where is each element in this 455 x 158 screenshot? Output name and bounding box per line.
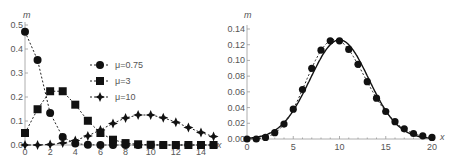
data-point [382,108,389,115]
data-point [184,141,192,149]
y-tick-label: 0.1 [10,116,23,126]
legend-item-mu-10: μ=10 [90,92,135,102]
y-tick-label: 0.3 [10,68,23,78]
data-point [345,46,352,53]
data-point [196,128,206,138]
data-point [391,118,398,125]
data-point [147,141,155,149]
data-point [271,129,278,136]
right-series [243,37,435,142]
data-point [84,117,92,125]
data-point [327,37,334,44]
data-point [172,141,180,149]
data-point [171,117,181,127]
y-tick-label: 0.08 [227,71,245,81]
data-point [290,106,297,113]
data-point [308,65,315,72]
data-point [373,95,380,102]
data-point [410,130,417,137]
y-tick-label: 0.4 [10,44,23,54]
data-point [299,86,306,93]
data-point [336,37,343,44]
data-point [210,141,218,149]
data-point [59,87,67,95]
data-point [183,122,193,132]
data-point [84,141,92,149]
data-point [280,120,287,127]
data-point [364,78,371,85]
data-point [45,140,55,150]
data-point [21,129,29,137]
legend-item-mu-0-75: μ=0.75 [90,60,143,70]
poisson-curve [247,40,431,140]
left-y-axis-label: m [23,10,31,20]
data-point [83,131,93,141]
left-chart: m x 0.00.10.20.30.40.502468101214 μ=0.75… [10,10,222,157]
data-point [122,139,130,147]
y-tick-label: 0.02 [227,118,245,128]
data-point [401,125,408,132]
x-tick-label: 20 [427,142,437,152]
x-tick-label: 0 [244,142,249,152]
data-point [158,113,168,123]
data-point [419,132,426,139]
y-tick-label: 0.12 [227,40,245,50]
data-point [262,134,269,141]
x-tick-label: 10 [334,142,344,152]
left-series [20,28,219,150]
y-tick-label: 0.06 [227,87,245,97]
right-x-axis-label: x [439,132,445,142]
normal-curve [247,40,431,138]
data-point [96,141,104,149]
legend-label: μ=3 [115,76,130,86]
x-tick-label: 15 [381,142,391,152]
data-point [197,141,205,149]
left-legend: μ=0.75 μ=3 μ=10 [90,60,143,102]
data-point [159,141,167,149]
y-tick-label: 0.10 [227,55,245,65]
right-y-axis-label: m [244,10,252,20]
y-tick-label: 0.04 [227,103,245,113]
right-chart: m x 0.000.020.040.060.080.100.120.140510… [227,10,445,152]
data-point [121,113,131,123]
y-tick-label: 0.2 [10,92,23,102]
data-point [354,61,361,68]
data-point [71,101,79,109]
x-tick-label: 4 [73,147,78,157]
figure: m x 0.00.10.20.30.40.502468101214 μ=0.75… [0,0,455,158]
data-point [243,135,250,142]
y-tick-label: 0.00 [227,134,245,144]
data-point [33,140,43,150]
y-tick-label: 0.5 [10,20,23,30]
legend-item-mu-3: μ=3 [90,76,130,86]
data-point [253,135,260,142]
data-point [21,28,29,36]
data-point [146,110,156,120]
data-point [58,138,68,148]
data-point [317,47,324,54]
data-point [34,105,42,113]
data-point [46,109,54,117]
data-point [109,136,117,144]
legend-label: μ=10 [115,92,135,102]
data-point [428,134,435,141]
data-point [34,56,42,64]
data-point [133,110,143,120]
data-point [46,87,54,95]
y-tick-label: 0.14 [227,24,245,34]
legend-label: μ=0.75 [115,60,143,70]
data-point [134,140,142,148]
data-point [108,118,118,128]
x-tick-label: 5 [291,142,296,152]
